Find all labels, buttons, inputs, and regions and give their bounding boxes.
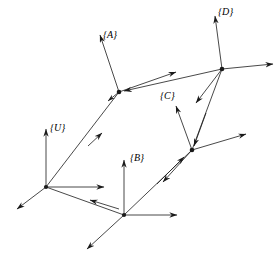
frame-origin-dots [44,67,224,217]
transform-line-c-d [192,69,222,150]
frame-B-axes [87,160,177,249]
frame-C-axis-down-left [163,150,192,182]
coordinate-frames-figure: {U} {A} {B} {C} {D} [0,0,280,267]
frame-label-B: {B} [130,153,144,163]
frame-D-axis-right [222,64,273,69]
frame-A-origin-dot [117,90,122,95]
frame-label-D: {D} [218,7,233,17]
frame-D-axis-up [215,16,222,69]
frame-C-origin-dot [190,148,195,153]
frame-U-axis-down-left [17,187,46,209]
transform-arrow-u-a [82,135,101,140]
frame-C-axis-right-up [192,134,246,150]
figure-canvas [0,0,280,267]
transform-line-u-a [46,92,119,187]
frame-B-origin-dot [122,213,126,217]
frame-U-origin-dot [44,185,48,189]
frame-U-axes [17,129,104,209]
frame-D-origin-dot [220,67,225,72]
frame-B-axis-down-left [87,215,124,249]
transform-line-u-b [46,187,124,215]
frame-label-U: {U} [50,123,65,133]
frame-A-axis-up-right [119,72,176,92]
transform-arrowhead-u-a [88,133,102,146]
transform-arrowhead-d-c [194,113,206,146]
frame-D-axes [196,16,273,103]
frame-C-axis-up-left [176,106,192,150]
transform-links [46,69,222,215]
frame-A-axis-up-left [100,35,119,92]
frame-label-A: {A} [103,30,117,40]
frame-label-C: {C} [160,91,175,101]
transform-arrowhead-b-c [157,157,184,184]
